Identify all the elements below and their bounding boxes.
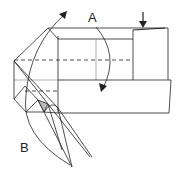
label-b: B [20,141,29,154]
fold-arrow-a [96,27,110,92]
push-arrow [139,12,147,28]
fold-arrow-b [25,11,70,165]
label-a: A [88,11,97,24]
